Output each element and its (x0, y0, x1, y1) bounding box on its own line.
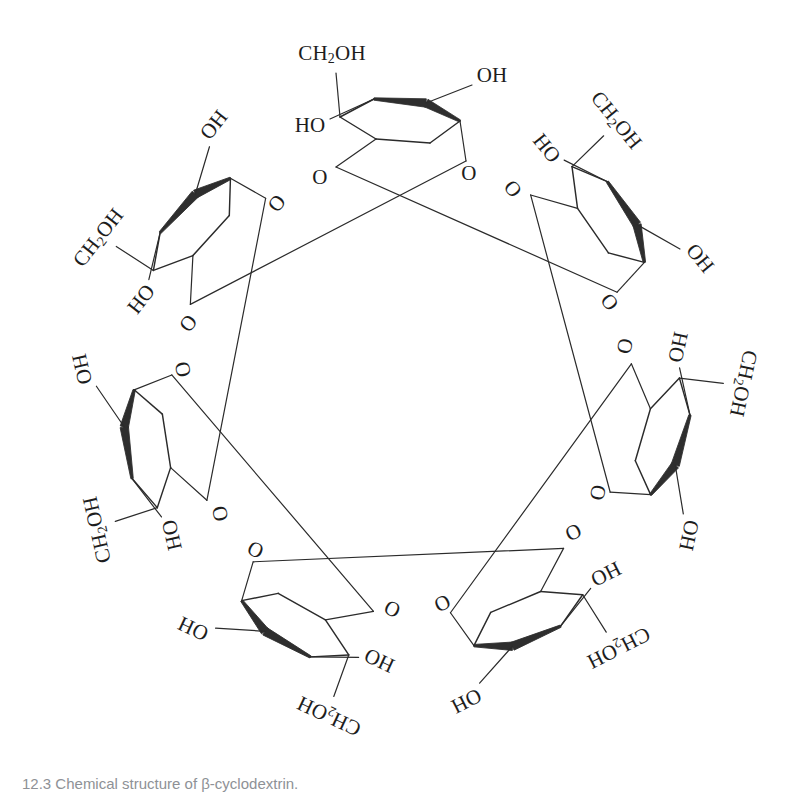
label-glycosidic-oxygen-1: O (312, 165, 327, 189)
chemical-structure-figure: CH2OHOHHOOOCH2OHOHHOOOCH2OHOHHOOOCH2OHOH… (0, 0, 807, 792)
molecule-canvas: CH2OHOHHOOOCH2OHOHHOOOCH2OHOHHOOOCH2OHOH… (0, 0, 807, 792)
label-oh-1: OH (477, 63, 508, 87)
label-ho-1: HO (295, 113, 326, 137)
figure-caption: 12.3 Chemical structure of β-cyclodextri… (22, 774, 762, 792)
label-ring-oxygen-1: O (461, 161, 476, 185)
